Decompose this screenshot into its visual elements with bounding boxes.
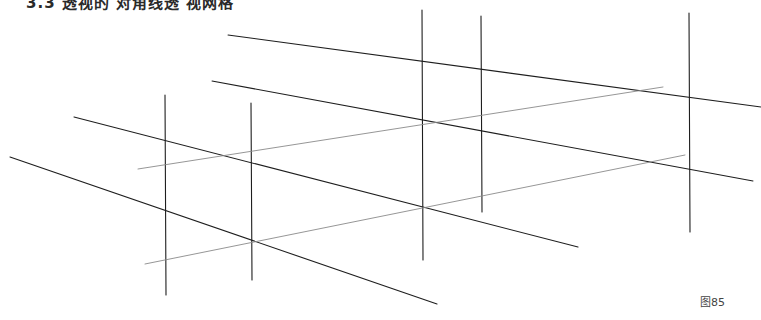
light-diagonal-line: [138, 87, 663, 169]
light-diagonal-lines: [138, 87, 685, 264]
light-diagonal-line: [145, 155, 685, 264]
vertical-line: [689, 13, 690, 232]
perspective-grid-sketch: [0, 0, 761, 320]
figure-label: 图85: [700, 293, 725, 309]
vertical-line: [481, 16, 482, 212]
dark-diagonal-lines: [10, 35, 761, 304]
dark-diagonal-line: [10, 157, 437, 304]
vertical-line: [251, 103, 252, 280]
dark-diagonal-line: [212, 81, 753, 181]
dark-diagonal-line: [228, 35, 761, 107]
vertical-line: [165, 95, 166, 295]
vertical-line: [422, 10, 423, 260]
